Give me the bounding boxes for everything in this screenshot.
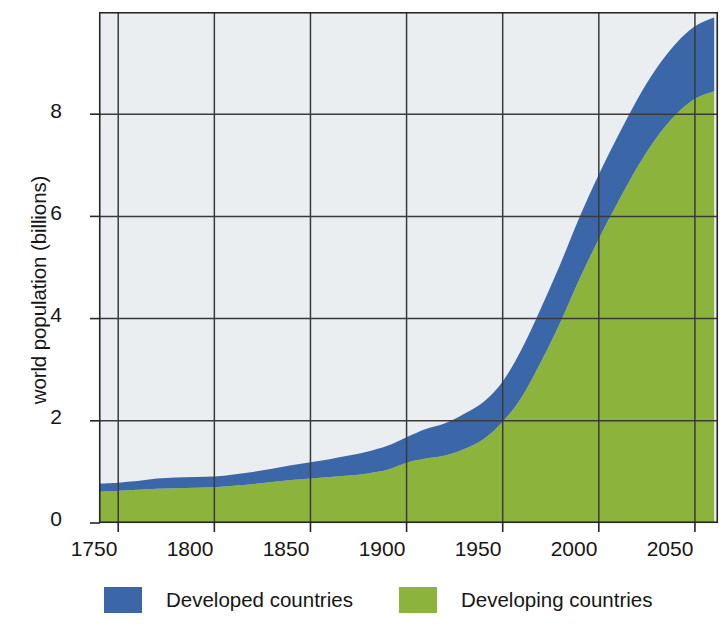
y-tick-label-4: 4 (28, 303, 62, 327)
legend-item-developed-countries[interactable]: Developed countries (104, 585, 353, 615)
plot-area (89, 12, 708, 523)
chart-legend: Developed countries Developing countries (0, 585, 714, 625)
y-tick-label-6: 6 (28, 201, 62, 225)
x-tick-label-1900: 1900 (337, 537, 427, 561)
plot-svg (89, 12, 720, 535)
x-tick-label-1950: 1950 (433, 537, 523, 561)
y-tick-label-2: 2 (28, 405, 62, 429)
x-tick-label-2050: 2050 (625, 537, 715, 561)
x-tick-label-1800: 1800 (145, 537, 235, 561)
square-swatch-icon (104, 587, 142, 613)
legend-item-developing-countries[interactable]: Developing countries (399, 585, 652, 615)
y-axis-title: world population (billions) (27, 70, 51, 510)
legend-label-developed-countries: Developed countries (166, 588, 353, 612)
square-swatch-icon (399, 587, 437, 613)
y-tick-label-8: 8 (28, 99, 62, 123)
legend-label-developing-countries: Developing countries (461, 588, 652, 612)
y-tick-label-0: 0 (28, 507, 62, 531)
x-tick-label-1750: 1750 (49, 537, 139, 561)
x-tick-label-1850: 1850 (241, 537, 331, 561)
x-tick-label-2000: 2000 (529, 537, 619, 561)
